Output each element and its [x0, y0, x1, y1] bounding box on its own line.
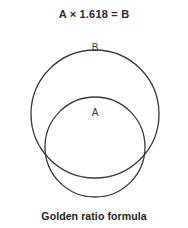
circle-b-label: B — [75, 42, 115, 54]
circle-a-label: A — [75, 107, 115, 119]
figure-caption: Golden ratio formula — [0, 209, 188, 223]
golden-ratio-figure: A × 1.618 = B B A Golden ratio formula — [0, 0, 188, 228]
